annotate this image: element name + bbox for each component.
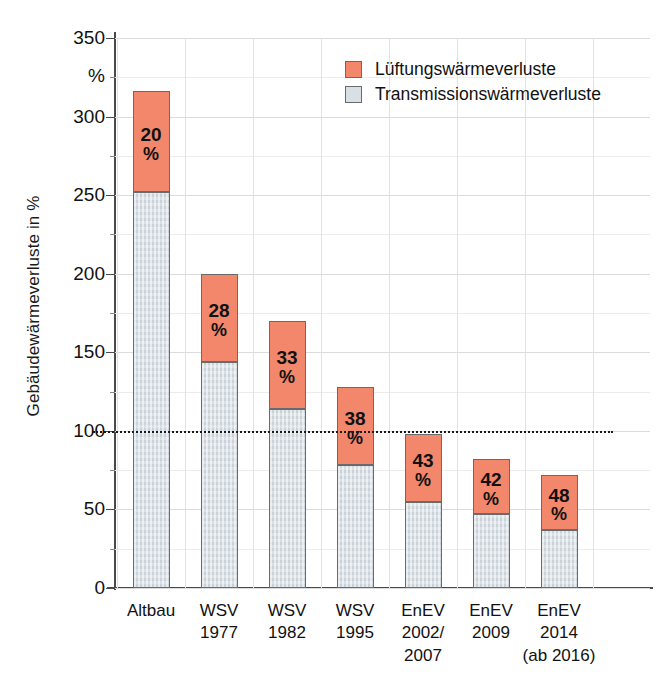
bar-5[interactable]: 42%	[473, 459, 510, 588]
y-tick-250	[106, 195, 115, 196]
bar-segment-transmission-2[interactable]	[269, 409, 306, 588]
y-axis-label-50: 50	[35, 499, 105, 518]
gridline-h-300	[115, 117, 650, 118]
y-axis-label-200: 200	[35, 264, 105, 283]
y-tick-minor-325	[110, 77, 115, 78]
bar-segment-transmission-0[interactable]	[133, 192, 170, 588]
gridline-h-150	[115, 352, 650, 353]
bar-segment-ventilation-4[interactable]	[405, 434, 442, 502]
y-axis-title: Gebäudewärmeverluste in %	[24, 96, 44, 516]
y-axis-label-350: 350	[35, 28, 105, 47]
bar-segment-ventilation-5[interactable]	[473, 459, 510, 514]
x-axis-label-6-line-0: EnEV	[504, 600, 614, 622]
y-tick-0	[106, 588, 115, 589]
reference-line-100	[93, 431, 613, 433]
y-tick-minor-225	[110, 234, 115, 235]
bar-segment-transmission-1[interactable]	[201, 362, 238, 588]
gridline-v-1	[185, 38, 186, 588]
bar-6[interactable]: 48%	[541, 475, 578, 588]
bar-segment-ventilation-1[interactable]	[201, 274, 238, 362]
gridline-h-275	[115, 156, 650, 157]
y-tick-50	[106, 509, 115, 510]
legend-label-transmission: Transmissionswärmeverluste	[375, 84, 601, 105]
bar-segment-ventilation-0[interactable]	[133, 91, 170, 192]
y-axis-unit: %	[35, 66, 105, 85]
gridline-v-5	[457, 38, 458, 588]
gridline-h-225	[115, 234, 650, 235]
y-tick-150	[106, 352, 115, 353]
y-tick-minor-75	[110, 470, 115, 471]
legend: Lüftungswärmeverluste Transmissionswärme…	[345, 57, 601, 107]
bar-segment-ventilation-6[interactable]	[541, 475, 578, 530]
bar-3[interactable]: 38%	[337, 387, 374, 588]
bar-segment-ventilation-3[interactable]	[337, 387, 374, 466]
x-axis-label-6[interactable]: EnEV2014(ab 2016)	[504, 600, 614, 667]
legend-label-ventilation: Lüftungswärmeverluste	[375, 59, 556, 80]
legend-item-ventilation[interactable]: Lüftungswärmeverluste	[345, 57, 601, 82]
legend-item-transmission[interactable]: Transmissionswärmeverluste	[345, 82, 601, 107]
bar-4[interactable]: 43%	[405, 434, 442, 588]
x-axis-label-6-line-1: 2014	[504, 622, 614, 644]
gridline-h-75	[115, 470, 650, 471]
gridline-v-0	[117, 38, 118, 588]
gridline-v-3	[321, 38, 322, 588]
bar-segment-transmission-6[interactable]	[541, 530, 578, 588]
y-tick-minor-175	[110, 313, 115, 314]
y-axis-label-250: 250	[35, 185, 105, 204]
bar-segment-transmission-3[interactable]	[337, 465, 374, 588]
plot-area: 20%28%33%38%43%42%48%	[115, 38, 650, 588]
y-axis-label-300: 300	[35, 107, 105, 126]
gridline-h-250	[115, 195, 650, 196]
y-tick-minor-25	[110, 549, 115, 550]
x-axis-label-6-line-2: (ab 2016)	[504, 645, 614, 667]
gridline-h-0	[115, 588, 650, 589]
y-tick-300	[106, 117, 115, 118]
y-axis-label-150: 150	[35, 342, 105, 361]
bar-segment-transmission-5[interactable]	[473, 514, 510, 588]
legend-swatch-ventilation	[345, 61, 362, 78]
y-axis-label-100: 100	[35, 421, 105, 440]
gridline-h-175	[115, 313, 650, 314]
gridline-h-125	[115, 392, 650, 393]
chart-container: Gebäudewärmeverluste in % 20%28%33%38%43…	[0, 0, 669, 688]
bar-2[interactable]: 33%	[269, 321, 306, 588]
y-tick-minor-275	[110, 156, 115, 157]
legend-swatch-transmission	[345, 86, 362, 103]
bar-0[interactable]: 20%	[133, 91, 170, 588]
y-axis-label-0: 0	[35, 578, 105, 597]
bar-segment-ventilation-2[interactable]	[269, 321, 306, 409]
gridline-h-350	[115, 38, 650, 39]
x-axis-label-4-line-2: 2007	[368, 645, 478, 667]
y-tick-200	[106, 274, 115, 275]
gridline-v-2	[253, 38, 254, 588]
gridline-v-6	[525, 38, 526, 588]
y-tick-350	[106, 38, 115, 39]
gridline-v-7	[593, 38, 594, 588]
bar-segment-transmission-4[interactable]	[405, 502, 442, 588]
y-tick-minor-125	[110, 392, 115, 393]
gridline-h-200	[115, 274, 650, 275]
gridline-v-4	[389, 38, 390, 588]
